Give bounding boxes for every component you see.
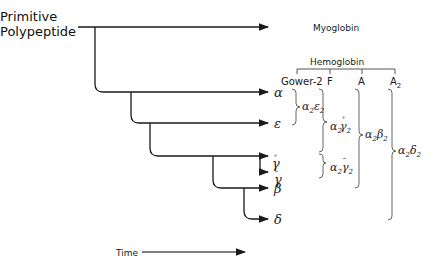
formula-a2: α2δ2 bbox=[398, 144, 421, 159]
gower2-brace bbox=[292, 89, 300, 125]
epsilon-branch bbox=[131, 92, 268, 123]
chain-delta: δ bbox=[274, 213, 282, 226]
time-label: Time bbox=[116, 247, 138, 259]
formula-a: α2β2 bbox=[365, 128, 388, 143]
type-gower2: Gower-2 bbox=[281, 76, 323, 88]
f-a-brace bbox=[319, 154, 326, 178]
a2-brace bbox=[388, 89, 396, 220]
formula-f-a: α2^γ2 bbox=[330, 156, 353, 176]
root-label-line1: Primitive bbox=[0, 9, 76, 24]
root-label: Primitive Polypeptide bbox=[0, 9, 76, 39]
alpha-branch bbox=[95, 27, 268, 92]
root-label-line2: Polypeptide bbox=[0, 24, 76, 39]
a-brace bbox=[355, 89, 363, 188]
hemoglobin-label: Hemoglobin bbox=[310, 56, 364, 68]
delta-branch bbox=[244, 188, 268, 219]
chain-epsilon: ε bbox=[274, 117, 281, 130]
type-f: F bbox=[327, 76, 333, 88]
f-g-brace bbox=[319, 89, 327, 152]
formula-gower2: α2ε2 bbox=[302, 100, 324, 115]
chain-alpha: α bbox=[274, 86, 283, 99]
type-a2: A2 bbox=[390, 76, 401, 92]
chain-beta: β bbox=[274, 182, 282, 195]
myoglobin-label: Myoglobin bbox=[313, 22, 359, 34]
a-gamma-branch bbox=[260, 156, 268, 172]
formula-f-g: α2°γ2 bbox=[330, 115, 351, 135]
g-gamma-branch bbox=[150, 123, 268, 156]
type-a: A bbox=[358, 76, 365, 88]
hemoglobin-bracket bbox=[297, 69, 395, 74]
